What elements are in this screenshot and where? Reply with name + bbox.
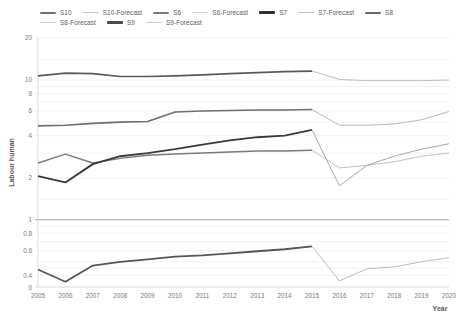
x-tick-label: 2008 xyxy=(113,292,128,299)
x-tick-label: 2013 xyxy=(250,292,265,299)
y-tick-label: 6 xyxy=(28,107,32,114)
x-tick-label: 2011 xyxy=(196,292,210,299)
x-axis-title: Year xyxy=(433,305,448,312)
series-line-s8 xyxy=(38,71,312,76)
y-axis-title: Labour human xyxy=(8,138,15,187)
x-tick-label: 2020 xyxy=(442,292,456,299)
y-tick-label: 2 xyxy=(28,174,32,181)
series-line-s6 xyxy=(38,150,312,163)
y-tick-label: 0.8 xyxy=(23,230,32,237)
y-tick-label: 20 xyxy=(25,34,33,41)
y-tick-label: 0.6 xyxy=(23,247,32,254)
y-tick-label-zero: 0 xyxy=(28,284,32,291)
chart-screenshot: S10S10-ForecastS6S6-ForecastS7S7-Forecas… xyxy=(0,0,456,322)
series-line-s9 xyxy=(38,246,312,281)
x-tick-label: 2006 xyxy=(58,292,73,299)
x-tick-label: 2015 xyxy=(305,292,320,299)
line-chart-plot: 0.40.60.81246810200200520062007200820092… xyxy=(0,0,456,322)
x-tick-label: 2014 xyxy=(278,292,293,299)
x-tick-label: 2018 xyxy=(387,292,402,299)
x-tick-label: 2005 xyxy=(31,292,46,299)
x-tick-label: 2012 xyxy=(223,292,238,299)
series-line-s8-forecast xyxy=(312,71,449,81)
y-tick-label: 10 xyxy=(25,76,33,83)
series-line-s10-forecast xyxy=(312,110,449,126)
y-tick-label: 0.4 xyxy=(23,272,32,279)
y-tick-label: 1 xyxy=(28,216,32,223)
series-line-s7 xyxy=(38,130,312,183)
series-line-s10 xyxy=(38,110,312,126)
x-tick-label: 2007 xyxy=(86,292,101,299)
y-tick-label: 4 xyxy=(28,132,32,139)
x-tick-label: 2017 xyxy=(360,292,375,299)
series-line-s9-forecast xyxy=(312,246,449,281)
y-tick-label: 8 xyxy=(28,90,32,97)
x-tick-label: 2016 xyxy=(332,292,347,299)
x-tick-label: 2019 xyxy=(415,292,430,299)
x-tick-label: 2010 xyxy=(168,292,183,299)
x-tick-label: 2009 xyxy=(141,292,156,299)
